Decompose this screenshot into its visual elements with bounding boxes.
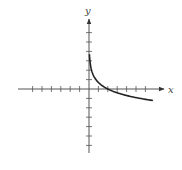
y-axis-label: y [84,5,91,16]
graph: x y [0,0,182,170]
curve-line [89,54,152,100]
x-axis-label: x [168,84,174,95]
